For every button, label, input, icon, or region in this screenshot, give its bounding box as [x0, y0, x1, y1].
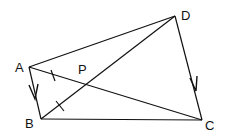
segment-cd [175, 16, 202, 120]
label-a: A [15, 60, 24, 75]
quadrilateral-diagram: A B C D P [0, 0, 231, 131]
tick-mark-ap [51, 70, 55, 81]
segment-bc [41, 119, 202, 120]
label-p: P [78, 62, 87, 77]
label-b: B [25, 116, 34, 131]
segment-ab [29, 67, 41, 119]
label-d: D [181, 8, 190, 23]
diagonal-bd [41, 16, 175, 119]
segment-da [29, 16, 175, 67]
diagonal-ac [29, 67, 202, 120]
label-c: C [205, 118, 214, 131]
